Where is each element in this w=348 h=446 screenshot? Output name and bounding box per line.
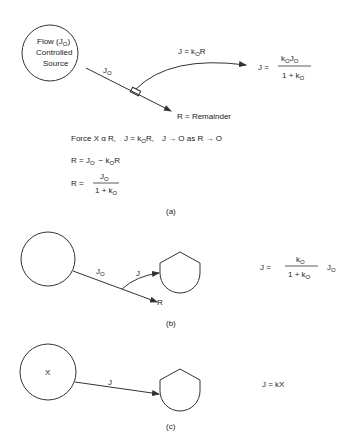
svg-text:R =: R = bbox=[71, 179, 84, 188]
source-label-line3: Source bbox=[43, 59, 69, 68]
svg-text:1 + kO: 1 + kO bbox=[95, 186, 118, 196]
flow-arrow-j-c bbox=[75, 382, 159, 394]
svg-text:JO: JO bbox=[327, 263, 336, 273]
flow-label-j0-b: JO bbox=[96, 267, 105, 277]
source-circle-b bbox=[21, 232, 75, 286]
caption-a: (a) bbox=[166, 207, 176, 216]
result-equation-a: J = kOJO 1 + kO bbox=[258, 54, 311, 81]
source-label-line2: Controlled bbox=[36, 48, 72, 57]
remainder-label-b: R bbox=[157, 298, 163, 307]
result-equation-c: J = kX bbox=[262, 380, 285, 389]
sink-shape-b bbox=[160, 252, 200, 293]
caption-c: (c) bbox=[166, 422, 176, 431]
flow-arrow-j0-b bbox=[73, 271, 157, 302]
caption-b: (b) bbox=[166, 319, 176, 328]
flow-arrow-j0 bbox=[86, 68, 171, 111]
sink-shape-c bbox=[160, 369, 200, 411]
panel-c: X J J = kX (c) bbox=[20, 344, 285, 431]
branch-label: J = kOR bbox=[178, 47, 206, 57]
svg-text:J =: J = bbox=[258, 63, 269, 72]
svg-text:1 + kO: 1 + kO bbox=[282, 71, 305, 81]
svg-text:J =: J = bbox=[260, 263, 271, 272]
svg-text:kO: kO bbox=[296, 255, 305, 265]
panel-b: JO J R (b) J = kO 1 + kO JO bbox=[21, 232, 336, 328]
source-label-line1: Flow (JO) bbox=[37, 37, 70, 47]
flow-label-j0: JO bbox=[103, 66, 112, 76]
branch-arrow-j bbox=[136, 63, 246, 89]
remainder-label: R = Remainder bbox=[177, 112, 231, 121]
svg-text:1 + kO: 1 + kO bbox=[288, 270, 311, 280]
branch-label-b: J bbox=[136, 269, 140, 278]
source-label-x: X bbox=[45, 368, 51, 377]
branch-arrow-j-b bbox=[122, 273, 159, 289]
flow-label-j-c: J bbox=[108, 378, 112, 387]
remainder-equation-1: R = JO− kOR bbox=[71, 156, 120, 166]
panel-a: Flow (JO) Controlled Source JO J = kOR R… bbox=[22, 25, 311, 216]
force-relation: Force X α R,J = kOR,J → O as R → O bbox=[71, 134, 222, 144]
svg-text:JO: JO bbox=[100, 172, 109, 182]
flow-diagram: Flow (JO) Controlled Source JO J = kOR R… bbox=[0, 0, 348, 446]
svg-text:kOJO: kOJO bbox=[281, 54, 299, 64]
remainder-equation-2: R = JO 1 + kO bbox=[71, 172, 119, 196]
result-equation-b: J = kO 1 + kO JO bbox=[260, 255, 336, 280]
